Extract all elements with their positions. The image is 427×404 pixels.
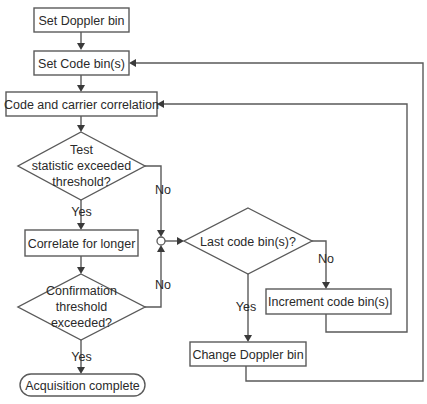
- arrowhead: [77, 43, 85, 50]
- junction-node: [157, 237, 165, 245]
- node-label: Code and carrier correlation: [4, 98, 159, 112]
- arrowhead: [157, 245, 165, 252]
- node-acquisition-complete: Acquisition complete: [20, 374, 145, 396]
- label-confirm-no: No: [155, 278, 171, 292]
- node-label: Increment code bin(s): [268, 295, 389, 309]
- label-confirm-yes: Yes: [71, 350, 91, 364]
- arrowhead: [244, 335, 252, 342]
- edge-test-no: [145, 166, 161, 231]
- node-set-code: Set Code bin(s): [34, 51, 129, 75]
- label-test-yes: Yes: [71, 205, 91, 219]
- label-last-no: No: [318, 252, 334, 266]
- node-correlate-longer: Correlate for longer: [25, 230, 138, 256]
- node-label: Last code bin(s)?: [200, 235, 296, 249]
- node-label-line3: exceeded?: [51, 316, 112, 330]
- acquisition-flowchart: Set Doppler bin Set Code bin(s) Code and…: [0, 0, 427, 404]
- node-correlation: Code and carrier correlation: [4, 92, 159, 116]
- node-label: Set Code bin(s): [38, 57, 125, 71]
- edge-changedoppler-loop: [135, 63, 423, 381]
- node-last-code-bin: Last code bin(s)?: [184, 208, 312, 274]
- arrowhead: [77, 223, 85, 230]
- arrowhead: [77, 125, 85, 132]
- node-label-line1: Test: [70, 143, 93, 157]
- node-label-line1: Confirmation: [46, 284, 117, 298]
- node-label-line3: threshold?: [52, 175, 110, 189]
- arrowhead: [129, 59, 136, 67]
- node-label-line2: statistic exceeded: [32, 159, 131, 173]
- arrowhead: [322, 282, 330, 289]
- edge-labels: Yes No No Yes Yes No: [71, 183, 334, 364]
- node-label-line2: threshold: [56, 300, 107, 314]
- node-test-statistic: Test statistic exceeded threshold?: [18, 132, 145, 200]
- label-last-yes: Yes: [236, 300, 256, 314]
- node-label: Acquisition complete: [25, 379, 140, 393]
- node-change-doppler: Change Doppler bin: [190, 342, 306, 366]
- arrowhead: [157, 230, 165, 237]
- node-set-doppler: Set Doppler bin: [34, 8, 129, 32]
- node-increment-code: Increment code bin(s): [266, 289, 391, 314]
- node-label: Set Doppler bin: [38, 14, 124, 28]
- node-confirmation: Confirmation threshold exceeded?: [18, 274, 145, 340]
- arrowhead: [77, 267, 85, 274]
- arrowhead: [77, 85, 85, 92]
- label-test-no: No: [155, 183, 171, 197]
- node-label: Change Doppler bin: [192, 348, 303, 362]
- node-label: Correlate for longer: [28, 237, 136, 251]
- arrowhead: [77, 367, 85, 374]
- connectors: [77, 32, 423, 381]
